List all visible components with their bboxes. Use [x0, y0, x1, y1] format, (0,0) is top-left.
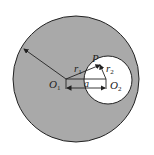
label-a: a	[84, 78, 89, 89]
label-P: P	[91, 52, 99, 64]
cavity-diagram: P r1 r2 O1 O2 a	[0, 0, 154, 155]
